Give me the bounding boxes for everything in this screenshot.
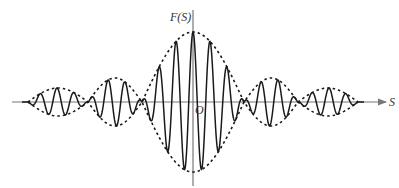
wave-packet-diagram: F(S) S O (0, 0, 399, 188)
y-axis-label: F(S) (169, 10, 191, 24)
origin-label: O (195, 103, 204, 117)
x-axis-label: S (389, 95, 395, 109)
